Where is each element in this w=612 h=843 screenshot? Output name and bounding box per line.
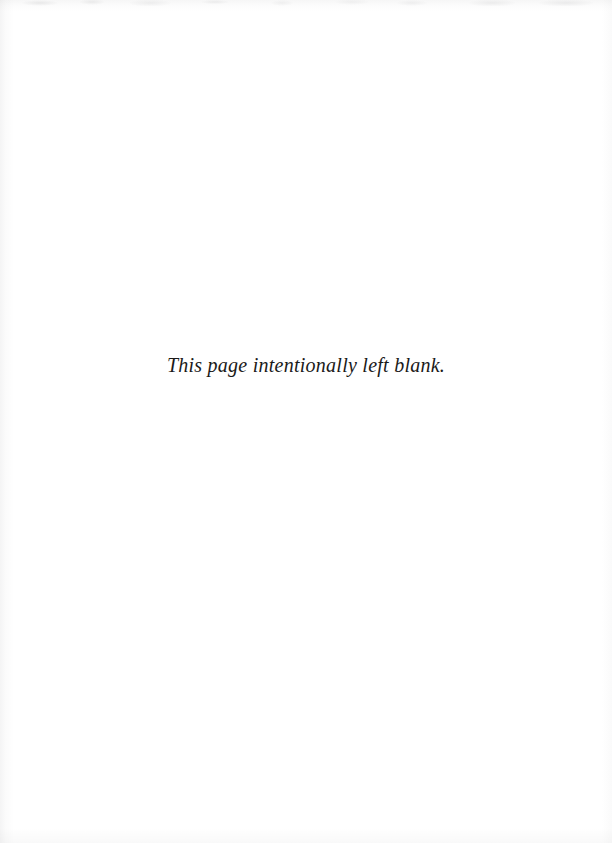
scan-shadow-left [0,0,14,843]
scan-shadow-right [602,0,612,843]
scanned-page: This page intentionally left blank. [0,0,612,843]
scan-shadow-top [0,0,612,11]
scan-noise-bottom [0,829,612,843]
blank-page-notice: This page intentionally left blank. [0,352,612,378]
scan-noise-top [0,0,612,9]
